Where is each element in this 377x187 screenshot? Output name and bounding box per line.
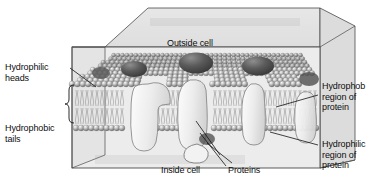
dome-protein-4 [92,67,110,79]
cell-membrane-figure: Hydrophilic heads Hydrophobic tails Hydr… [0,0,377,187]
label-hydrophilic-region-line2: region of [322,150,365,161]
phospholipid-head [123,81,129,87]
dome-protein-2 [179,53,213,74]
transmembrane-protein-3 [242,84,266,145]
phospholipid-head [166,81,172,87]
phospholipid-head [128,81,134,87]
phospholipid-head [226,81,232,87]
label-outside-cell: Outside cell [167,38,213,49]
phospholipid-head [269,81,275,87]
dome-protein-1 [121,61,147,77]
label-hydrophobic-tails-line1: Hydrophobic [5,123,54,134]
label-hydrophobic-region-of-protein: Hydrophob region of protein [322,81,365,113]
label-hydrophobic-tails: Hydrophobic tails [5,123,54,144]
phospholipid-head [215,81,221,87]
label-hydrophilic-heads-line2: heads [5,73,48,84]
label-hydrophilic-region-line3: protein [322,160,365,171]
label-hydrophilic-region-line1: Hydrophilic [322,139,365,150]
phospholipid-head [163,71,168,76]
transmembrane-protein-4 [295,92,317,143]
phospholipid-head [153,71,158,76]
phospholipid-head [220,81,226,87]
phospholipid-head [74,81,80,87]
phospholipid-head [96,81,102,87]
phospholipid-head [274,81,280,87]
label-hydrophilic-region-of-protein: Hydrophilic region of protein [322,139,365,171]
label-inside-cell: Inside cell [161,165,200,176]
cell-box-3d [72,8,355,168]
phospholipid-head [85,81,91,87]
phospholipid-head [231,81,237,87]
label-hydrophob-region-line1: Hydrophob [322,81,365,92]
phospholipid-head [119,125,125,131]
phospholipid-head [101,81,107,87]
phospholipid-head [107,81,113,87]
phospholipid-head [285,81,291,87]
phospholipid-head [242,81,248,87]
phospholipid-head [148,71,153,76]
phospholipid-head [280,81,286,87]
dome-protein-5 [299,72,319,86]
phospholipid-head [236,81,242,87]
label-hydrophilic-heads: Hydrophilic heads [5,62,48,83]
label-hydrophobic-tails-line2: tails [5,134,54,145]
phospholipid-head [158,71,163,76]
phospholipid-head [80,81,86,87]
phospholipid-head [290,81,296,87]
phospholipid-head [172,81,178,87]
label-hydrophob-region-line3: protein [322,102,365,113]
membrane-diagram-canvas [0,0,377,187]
phospholipid-head [209,71,214,76]
phospholipid-head [209,81,215,87]
dome-protein-3 [242,57,274,76]
phospholipid-head [118,81,124,87]
label-proteins: Proteins [228,165,260,176]
label-hydrophob-region-line2: region of [322,92,365,103]
phospholipid-head [112,81,118,87]
label-hydrophilic-heads-line1: Hydrophilic [5,62,48,73]
